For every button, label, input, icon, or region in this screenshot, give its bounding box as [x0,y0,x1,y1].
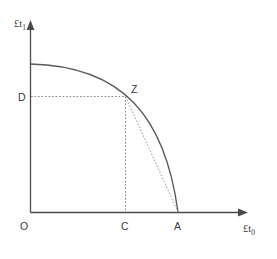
frontier-chart-canvas: £t1 £t0 O D C A Z [0,0,277,259]
origin-label: O [20,220,28,232]
x-axis-currency-symbol: £t [243,223,251,234]
x-axis-title: £t0 [243,223,255,237]
y-axis-mark-d-label: D [18,91,26,103]
economics-frontier-figure: £t1 £t0 O D C A Z [0,0,277,259]
x-axis-subscript: 0 [251,228,255,237]
x-axis-mark-a-label: A [174,220,181,232]
y-axis-arrowhead [27,20,35,30]
y-axis-title: £t1 [14,18,26,32]
chord-z-to-a-line [126,97,179,213]
axes-group [27,20,248,216]
x-axis-arrowhead [238,209,248,217]
production-possibility-frontier-curve [31,64,179,212]
point-z-label: Z [131,83,138,95]
y-axis-subscript: 1 [22,23,26,32]
x-axis-mark-c-label: C [121,220,129,232]
y-axis-currency-symbol: £t [14,18,22,29]
